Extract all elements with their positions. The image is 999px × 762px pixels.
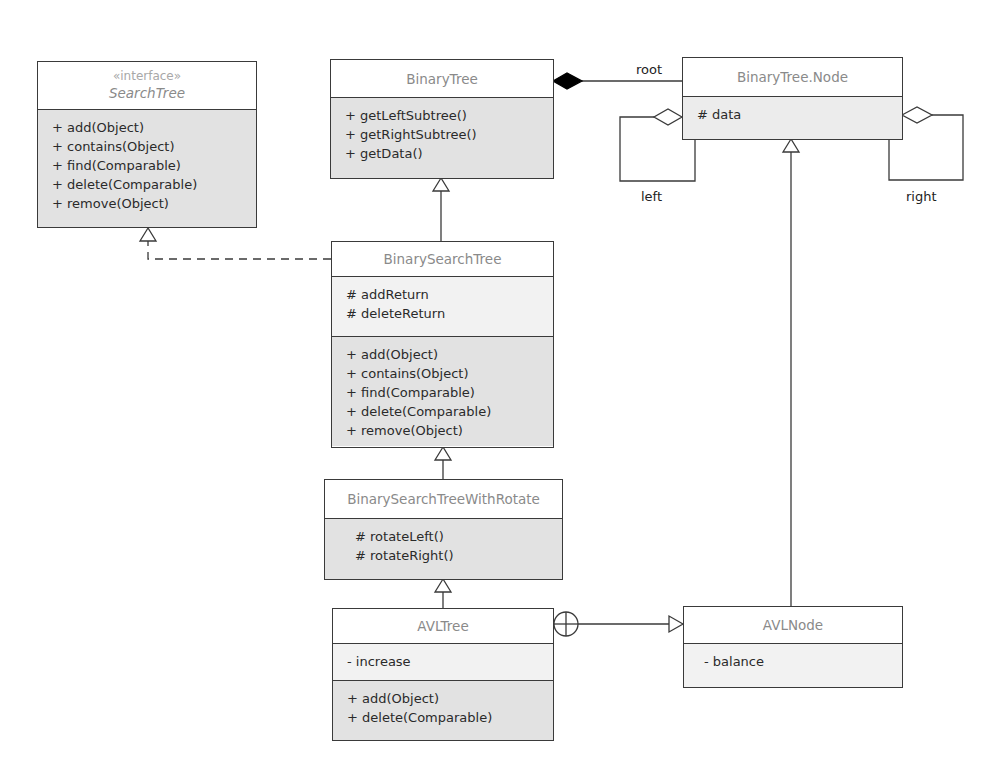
realization-arrowhead-icon (140, 228, 156, 241)
operation: + remove(Object) (52, 194, 256, 213)
class-bst-with-rotate[interactable]: BinarySearchTreeWithRotate # rotateLeft(… (324, 479, 563, 580)
class-searchtree[interactable]: «interface» SearchTree + add(Object) + c… (37, 61, 257, 228)
operation: + getLeftSubtree() (345, 106, 553, 125)
class-header: BinaryTree.Node (683, 58, 902, 97)
role-label-left: left (641, 189, 662, 204)
class-header: BinarySearchTreeWithRotate (325, 480, 562, 519)
class-avlnode[interactable]: AVLNode - balance (683, 606, 903, 688)
class-name: BinaryTree (406, 71, 478, 87)
role-label-root: root (636, 62, 662, 77)
generalization-arrowhead-icon (435, 447, 451, 460)
operation: + add(Object) (346, 345, 553, 364)
operation: + find(Comparable) (52, 156, 256, 175)
role-label-right: right (906, 189, 937, 204)
generalization-arrowhead-icon (433, 178, 449, 191)
operations-section: + add(Object) + delete(Comparable) (333, 681, 553, 740)
aggregation-right-diamond-icon (902, 107, 932, 123)
attributes-section: - increase (333, 644, 553, 681)
class-header: AVLTree (333, 609, 553, 644)
operation: + contains(Object) (52, 137, 256, 156)
class-name: AVLTree (417, 618, 468, 634)
realization-line (148, 241, 331, 259)
attribute: - balance (704, 652, 902, 671)
class-avltree[interactable]: AVLTree - increase + add(Object) + delet… (332, 608, 554, 741)
stereotype-label: «interface» (113, 69, 181, 84)
class-name: BinarySearchTreeWithRotate (347, 491, 540, 507)
aggregation-left-diamond-icon (654, 109, 682, 125)
attribute: # deleteReturn (346, 304, 553, 323)
attribute: - increase (347, 652, 553, 671)
class-name: AVLNode (763, 617, 823, 633)
operation: + find(Comparable) (346, 383, 553, 402)
class-binarytree[interactable]: BinaryTree + getLeftSubtree() + getRight… (330, 59, 554, 179)
attribute: # data (697, 105, 902, 124)
class-name: BinaryTree.Node (737, 69, 848, 85)
class-header: BinarySearchTree (332, 242, 553, 277)
attributes-section: - balance (684, 644, 902, 687)
operation: + remove(Object) (346, 421, 553, 440)
class-header: BinaryTree (331, 60, 553, 98)
attribute: # addReturn (346, 285, 553, 304)
operations-section: + add(Object) + contains(Object) + find(… (332, 337, 553, 446)
operation: + delete(Comparable) (347, 708, 553, 727)
operation: + getData() (345, 144, 553, 163)
attributes-section: # data (683, 97, 902, 139)
operation: + add(Object) (347, 689, 553, 708)
class-binarytree-node[interactable]: BinaryTree.Node # data (682, 57, 903, 140)
class-header: «interface» SearchTree (38, 62, 256, 110)
operation: + delete(Comparable) (52, 175, 256, 194)
class-name: BinarySearchTree (384, 251, 502, 267)
operations-section: # rotateLeft() # rotateRight() (325, 519, 562, 579)
operation: + contains(Object) (346, 364, 553, 383)
class-binarysearchtree[interactable]: BinarySearchTree # addReturn # deleteRet… (331, 241, 554, 448)
generalization-arrowhead-icon (783, 139, 799, 152)
class-header: AVLNode (684, 607, 902, 644)
attributes-section: # addReturn # deleteReturn (332, 277, 553, 337)
generalization-arrowhead-icon (435, 579, 451, 592)
operation: + add(Object) (52, 118, 256, 137)
operation: # rotateRight() (355, 546, 562, 565)
operation: # rotateLeft() (355, 527, 562, 546)
operations-section: + getLeftSubtree() + getRightSubtree() +… (331, 98, 553, 178)
class-name: SearchTree (109, 84, 185, 102)
operations-section: + add(Object) + contains(Object) + find(… (38, 110, 256, 227)
nesting-arrowhead-icon (669, 616, 683, 632)
composition-diamond-icon (553, 73, 582, 89)
operation: + getRightSubtree() (345, 125, 553, 144)
operation: + delete(Comparable) (346, 402, 553, 421)
